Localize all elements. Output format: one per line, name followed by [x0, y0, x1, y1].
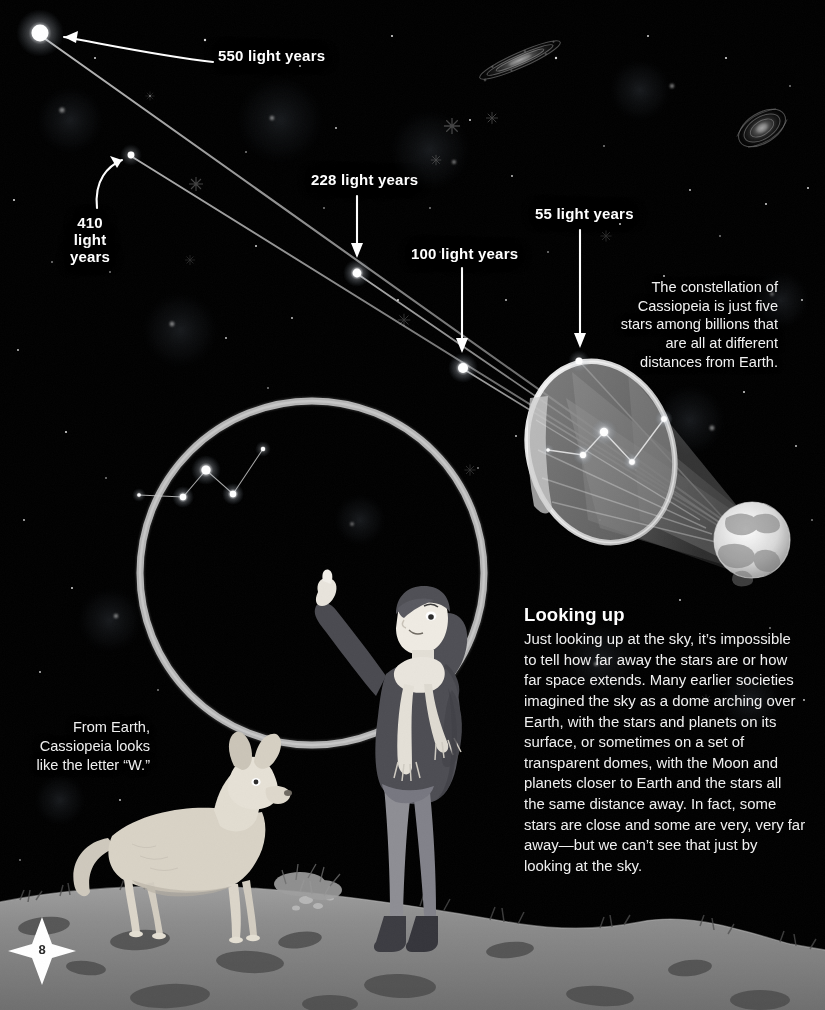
page-number: 8 — [8, 915, 76, 983]
label-550-light-years: 550 light years — [218, 48, 325, 65]
label-410-light-years: 410 light years — [60, 215, 120, 265]
article-body: Just looking up at the sky, it’s impossi… — [524, 629, 806, 877]
from-earth-caption: From Earth, Cassiopeia looks like the le… — [20, 718, 150, 775]
label-228-light-years: 228 light years — [311, 172, 418, 189]
constellation-caption: The constellation of Cassiopeia is just … — [612, 278, 778, 371]
article-block: Looking up Just looking up at the sky, i… — [524, 604, 806, 877]
label-100-light-years: 100 light years — [411, 246, 518, 263]
label-55-light-years: 55 light years — [535, 206, 634, 223]
page-number-badge: 8 — [8, 915, 76, 983]
article-heading: Looking up — [524, 604, 806, 626]
illustration-page: 550 light years 410 light years 228 ligh… — [0, 0, 825, 1010]
